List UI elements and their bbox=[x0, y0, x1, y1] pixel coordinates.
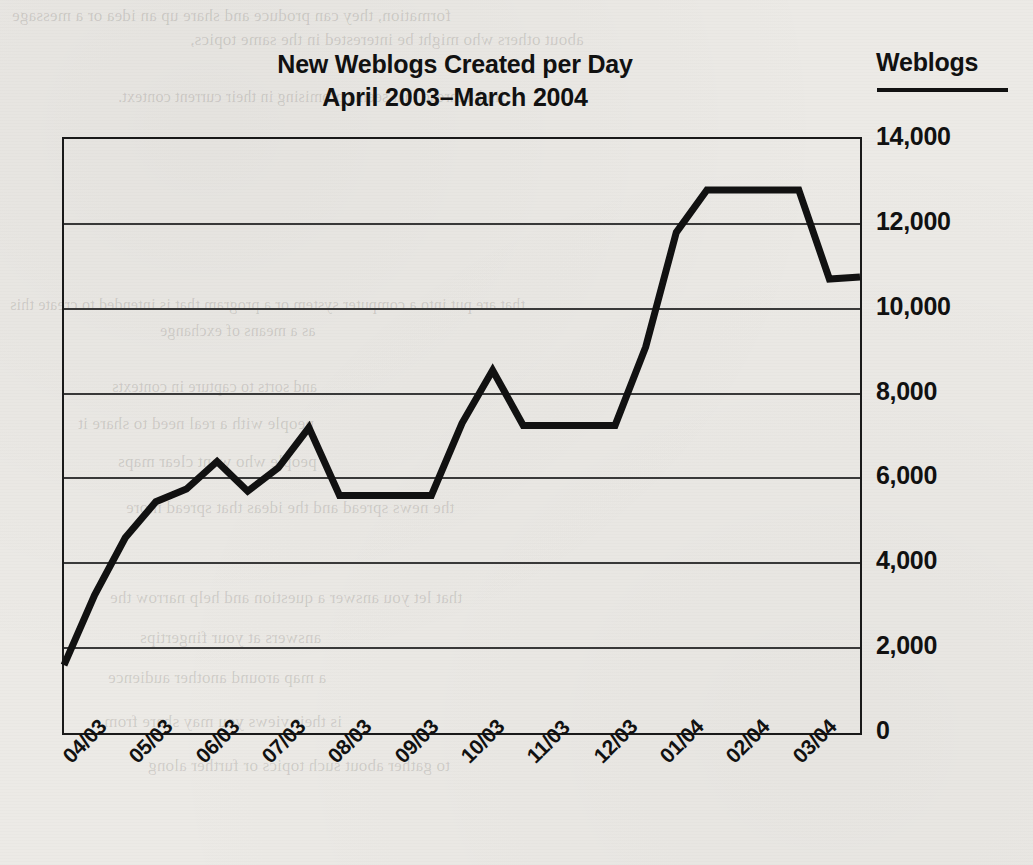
chart-title-line1: New Weblogs Created per Day bbox=[277, 50, 632, 78]
y-tick-label-6000: 6,000 bbox=[876, 461, 937, 490]
y-tick-label-12000: 12,000 bbox=[876, 207, 951, 236]
y-tick-label-2000: 2,000 bbox=[876, 631, 937, 660]
data-series-line bbox=[64, 139, 860, 733]
chart-figure: New Weblogs Created per Day April 2003–M… bbox=[0, 0, 1033, 865]
y-tick-label-4000: 4,000 bbox=[876, 546, 937, 575]
y-tick-label-8000: 8,000 bbox=[876, 377, 937, 406]
y-tick-label-14000: 14,000 bbox=[876, 122, 951, 151]
chart-title-line2: April 2003–March 2004 bbox=[60, 81, 850, 114]
y-axis-title-underline bbox=[877, 88, 1008, 92]
plot-area bbox=[62, 137, 862, 735]
series-polyline bbox=[64, 190, 860, 665]
y-tick-label-0: 0 bbox=[876, 716, 890, 745]
y-tick-label-10000: 10,000 bbox=[876, 292, 951, 321]
y-axis-title: Weblogs bbox=[876, 48, 978, 77]
chart-title: New Weblogs Created per Day April 2003–M… bbox=[60, 48, 850, 113]
